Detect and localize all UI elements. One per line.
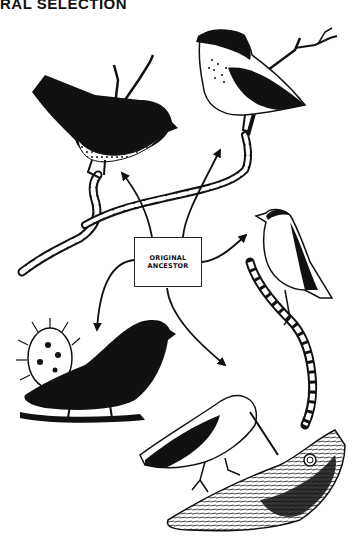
ancestor-label-line2: ANCESTOR [148, 262, 189, 270]
arrow-to-bottom-left [97, 260, 134, 330]
arrow-to-right [202, 235, 246, 262]
finch-top-right-figure [196, 30, 305, 132]
warbler-figure [256, 209, 332, 325]
ancestor-label-line1: ORIGINAL [150, 254, 187, 262]
original-ancestor-box: ORIGINAL ANCESTOR [134, 237, 202, 287]
finch-top-left-figure [32, 75, 178, 178]
arrow-to-bottom-right [167, 288, 225, 365]
